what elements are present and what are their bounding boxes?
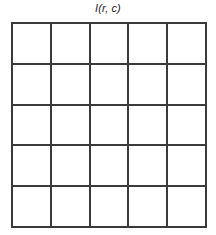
- grid-cell: [13, 146, 52, 187]
- grid-cell: [168, 146, 207, 187]
- grid-cell: [52, 187, 91, 228]
- grid-cell: [91, 24, 130, 65]
- grid-cell: [13, 24, 52, 65]
- grid-cell: [91, 187, 130, 228]
- grid-cell: [52, 65, 91, 106]
- grid-cell: [168, 187, 207, 228]
- grid-cell: [13, 65, 52, 106]
- grid-cell: [13, 106, 52, 147]
- grid-cell: [91, 65, 130, 106]
- grid-cell: [168, 24, 207, 65]
- figure-title: I(r, c): [0, 1, 216, 15]
- grid-cell: [129, 106, 168, 147]
- grid-cell: [91, 146, 130, 187]
- image-grid-figure: I(r, c): [0, 0, 216, 235]
- grid-cell: [52, 146, 91, 187]
- grid-cell: [91, 106, 130, 147]
- pixel-grid: [11, 22, 207, 228]
- grid-cell: [52, 24, 91, 65]
- grid-cell: [129, 146, 168, 187]
- grid-cell: [129, 65, 168, 106]
- grid-cell: [52, 106, 91, 147]
- grid-cell: [129, 187, 168, 228]
- grid-cell: [13, 187, 52, 228]
- grid-cell: [168, 65, 207, 106]
- grid-cell: [129, 24, 168, 65]
- grid-cell: [168, 106, 207, 147]
